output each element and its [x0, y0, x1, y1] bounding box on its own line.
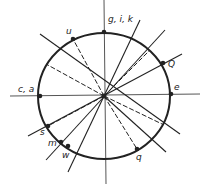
point-label: w	[62, 150, 70, 160]
point-marker	[59, 140, 64, 145]
point-label: u	[66, 26, 72, 36]
point-marker	[135, 147, 140, 152]
dash-sw	[48, 96, 104, 126]
point-marker	[102, 30, 107, 35]
point-label: q	[136, 152, 142, 162]
point-marker	[46, 124, 51, 129]
point-label: Q	[168, 59, 175, 69]
point-marker	[66, 144, 71, 149]
dash-nne	[104, 50, 150, 96]
point-label: s	[40, 127, 45, 137]
center-point	[102, 94, 107, 99]
point-marker	[161, 61, 166, 66]
point-label: e	[174, 82, 180, 92]
point-marker	[71, 37, 76, 42]
point-label: g, i, k	[108, 14, 134, 24]
line-se	[104, 96, 166, 152]
point-label: m	[48, 138, 57, 148]
circle-diagram: g, i, kuQc, aesmwq	[0, 0, 200, 184]
point-marker	[169, 92, 174, 97]
point-marker	[38, 94, 43, 99]
point-label: c, a	[18, 84, 34, 94]
